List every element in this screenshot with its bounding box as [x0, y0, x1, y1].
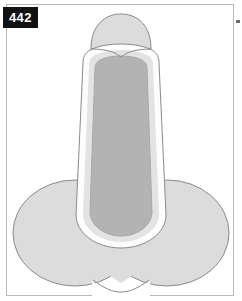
lobe-notch: [92, 281, 150, 300]
shaft-core: [90, 56, 152, 236]
figure-container: 442: [0, 0, 242, 301]
shaft-group: [76, 44, 166, 248]
figure-number-badge: 442: [3, 7, 38, 28]
page-edge-mark: [236, 20, 240, 23]
anatomical-diagram: [0, 0, 242, 301]
